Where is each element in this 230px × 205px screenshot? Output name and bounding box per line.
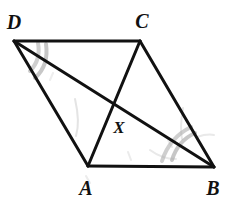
vertex-label-d: D — [7, 12, 21, 32]
geometry-diagram: D C A B X — [0, 0, 230, 205]
geometry-canvas — [0, 0, 230, 205]
vertex-label-c: C — [135, 11, 148, 31]
vertex-label-b: B — [206, 178, 219, 198]
vertex-label-a: A — [79, 178, 92, 198]
diagonals — [14, 41, 214, 167]
diagonal-AC — [88, 41, 140, 166]
side-AB — [88, 166, 214, 167]
intersection-label-x: X — [113, 119, 124, 136]
